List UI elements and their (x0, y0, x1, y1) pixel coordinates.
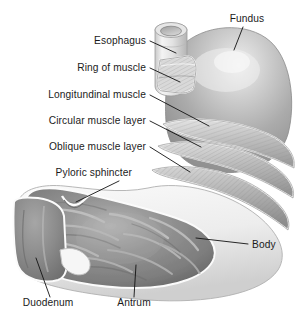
label-circular-muscle-layer: Circular muscle layer (49, 115, 147, 126)
label-esophagus: Esophagus (94, 35, 146, 46)
label-fundus: Fundus (230, 13, 265, 24)
esophagus-lumen (161, 26, 182, 36)
label-ring-of-muscle: Ring of muscle (77, 62, 146, 73)
muscle-ring-window (157, 56, 196, 93)
label-pyloric-sphincter: Pyloric sphincter (56, 167, 133, 178)
label-oblique-muscle-layer: Oblique muscle layer (49, 141, 147, 152)
label-longitudinal-muscle: Longitundinal muscle (48, 89, 146, 100)
label-duodenum: Duodenum (23, 297, 74, 308)
stomach-anatomy-figure: Esophagus Ring of muscle Longitundinal m… (0, 0, 308, 313)
label-body: Body (252, 239, 276, 250)
label-antrum: Antrum (117, 297, 150, 308)
